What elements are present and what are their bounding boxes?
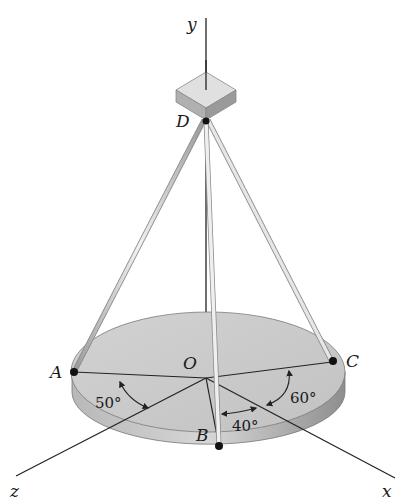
label-B: B bbox=[195, 425, 209, 445]
z-axis-label: z bbox=[9, 481, 20, 501]
angle-label-60: 60° bbox=[290, 389, 317, 407]
point-D bbox=[203, 118, 210, 125]
point-B bbox=[215, 442, 223, 450]
label-O: O bbox=[183, 353, 197, 373]
label-A: A bbox=[48, 362, 62, 382]
point-C bbox=[329, 357, 337, 365]
angle-label-40: 40° bbox=[232, 417, 259, 435]
tripod-disc-diagram: y z x D O A C B 50° 40° 60° bbox=[0, 0, 410, 503]
y-axis-label: y bbox=[186, 14, 197, 34]
label-D: D bbox=[175, 111, 190, 131]
disc-top bbox=[71, 312, 345, 432]
label-C: C bbox=[346, 351, 359, 371]
point-A bbox=[70, 368, 78, 376]
angle-label-50: 50° bbox=[95, 394, 122, 412]
x-axis-label: x bbox=[382, 481, 392, 501]
